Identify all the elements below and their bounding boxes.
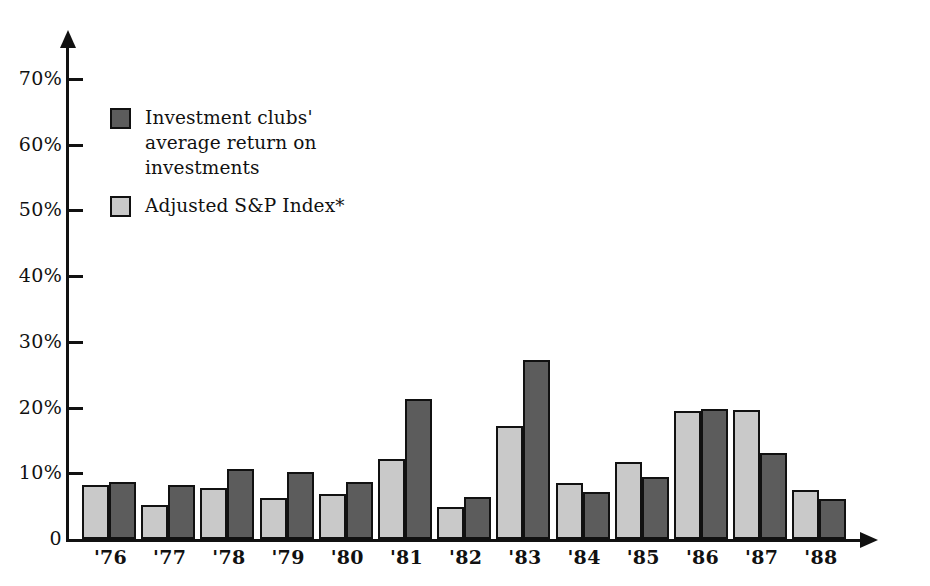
legend-swatch-icon (110, 196, 131, 217)
bar[interactable] (346, 482, 373, 539)
bar[interactable] (405, 399, 432, 539)
legend-swatch-icon (110, 108, 131, 129)
legend-label: Investment clubs' average return on inve… (145, 106, 317, 180)
bar[interactable] (792, 490, 819, 539)
y-axis-tick-label: 30% (19, 332, 62, 351)
bar[interactable] (82, 485, 109, 539)
y-axis-tick-label: 10% (19, 463, 62, 482)
bar[interactable] (701, 409, 728, 539)
bar[interactable] (260, 498, 287, 539)
legend-label: Adjusted S&P Index* (145, 194, 345, 219)
bar[interactable] (437, 507, 464, 539)
legend-item[interactable]: Investment clubs' average return on inve… (110, 106, 345, 180)
bar-group (674, 46, 731, 539)
bar[interactable] (733, 410, 760, 539)
bar[interactable] (819, 499, 846, 539)
bar[interactable] (464, 497, 491, 539)
bar[interactable] (760, 453, 787, 539)
bar-chart: 010%20%30%40%50%60%70% '76'77'78'79'80'8… (0, 0, 930, 586)
legend-item[interactable]: Adjusted S&P Index* (110, 194, 345, 219)
bar[interactable] (287, 472, 314, 539)
bar-group (733, 46, 790, 539)
bar[interactable] (642, 477, 669, 539)
bar-group (378, 46, 435, 539)
y-axis-tick-label: 20% (19, 398, 62, 417)
bar[interactable] (168, 485, 195, 539)
bar[interactable] (378, 459, 405, 539)
bar-group (437, 46, 494, 539)
bar[interactable] (319, 494, 346, 539)
bar[interactable] (200, 488, 227, 539)
bar[interactable] (523, 360, 550, 539)
bar[interactable] (109, 482, 136, 539)
y-axis-tick-label: 70% (19, 69, 62, 88)
bar-group (496, 46, 553, 539)
bar-group (556, 46, 613, 539)
bar[interactable] (141, 505, 168, 539)
y-axis-tick-label: 0 (50, 529, 62, 548)
bar-group (615, 46, 672, 539)
bar[interactable] (556, 483, 583, 539)
y-axis-tick-label: 50% (19, 200, 62, 219)
bar[interactable] (583, 492, 610, 539)
bar[interactable] (674, 411, 701, 539)
bar[interactable] (227, 469, 254, 539)
y-axis-tick-label: 60% (19, 135, 62, 154)
bar-group (792, 46, 849, 539)
y-axis-tick-label: 40% (19, 266, 62, 285)
chart-legend: Investment clubs' average return on inve… (110, 106, 345, 233)
x-axis-tick-label: '88 (786, 548, 856, 567)
x-axis-line (66, 539, 864, 542)
bar[interactable] (496, 426, 523, 539)
bar[interactable] (615, 462, 642, 539)
